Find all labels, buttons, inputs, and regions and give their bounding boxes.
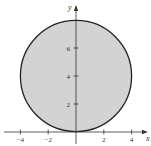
y-axis-label: y [67, 3, 72, 12]
y-axis-arrow-icon [74, 5, 78, 11]
x-tick-label: 2 [102, 136, 106, 144]
y-tick-label: 4 [67, 73, 71, 81]
y-tick-label: 2 [67, 101, 71, 109]
x-tick-label: 4 [130, 136, 134, 144]
x-tick-label: −4 [17, 136, 25, 144]
circle-chart: −4−224 246 x y [0, 0, 151, 146]
x-axis-label: x [145, 134, 150, 143]
y-tick-label: 6 [67, 45, 71, 53]
x-tick-label: −2 [44, 136, 52, 144]
